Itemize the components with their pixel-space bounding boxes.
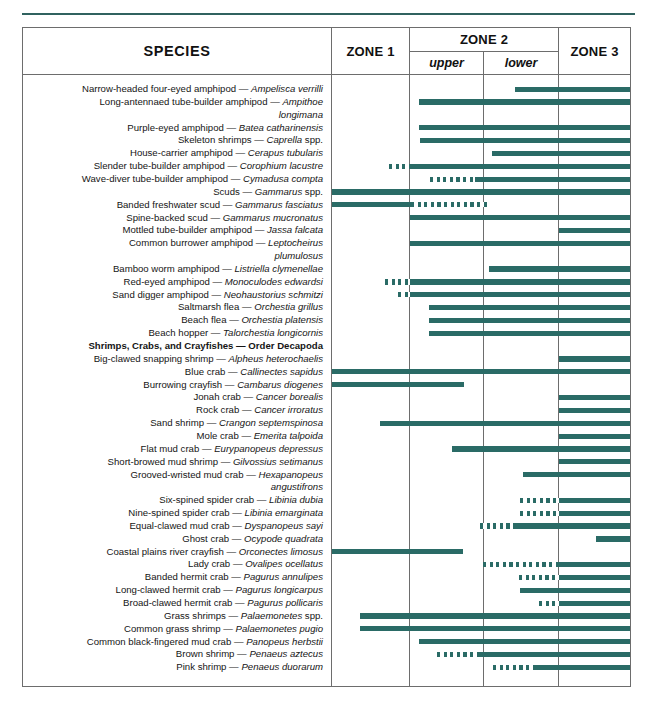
range-bar	[419, 125, 630, 130]
scientific-name: Orconectes limosus	[239, 546, 323, 557]
table-row: Saltmarsh flea — Orchestia grillus	[23, 301, 630, 314]
species-label: Grooved-wristed mud crab — Hexapanopeus	[23, 469, 329, 482]
species-label: House-carrier amphipod — Cerapus tubular…	[23, 147, 329, 160]
range-bar-dashed	[437, 652, 478, 657]
header-zone-2: ZONE 2	[410, 28, 558, 52]
common-name: Ghost crab —	[182, 533, 244, 544]
scientific-name: longimana	[279, 109, 323, 120]
group-heading-label: Shrimps, Crabs, and Crayfishes — Order D…	[23, 340, 329, 353]
scientific-name: Talorchestia longicornis	[223, 327, 323, 338]
common-name: Banded hermit crab —	[145, 571, 244, 582]
table-row: Spine-backed scud — Gammarus mucronatus	[23, 212, 630, 225]
range-bar	[478, 652, 630, 657]
table-row: longimana	[23, 109, 630, 122]
common-name: Long-clawed hermit crab —	[116, 584, 236, 595]
scientific-name: Pagurus annulipes	[244, 571, 323, 582]
scientific-name: Penaeus duorarum	[241, 661, 323, 672]
table-row: Sand shrimp — Crangon septemspinosa	[23, 417, 630, 430]
range-bar	[419, 99, 630, 104]
scientific-name: Neohaustorius schmitzi	[224, 289, 323, 300]
range-bar	[523, 472, 630, 477]
range-bar	[492, 151, 630, 156]
range-bar	[520, 588, 630, 593]
table-row: Grass shrimps — Palaemonetes spp.	[23, 610, 630, 623]
range-bar-dashed	[483, 562, 559, 567]
scientific-name: Monoculodes edwardsi	[225, 276, 323, 287]
range-bar	[420, 138, 630, 143]
species-label: Burrowing crayfish — Cambarus diogenes	[23, 379, 329, 392]
scientific-name: Pagurus longicarpus	[236, 584, 323, 595]
common-name: Bamboo worm amphipod —	[113, 263, 235, 274]
species-label: Saltmarsh flea — Orchestia grillus	[23, 301, 329, 314]
range-bar	[332, 549, 463, 554]
species-label: Coastal plains river crayfish — Orconect…	[23, 546, 329, 559]
range-bar	[559, 498, 630, 503]
common-name: Sand digger amphipod —	[112, 289, 223, 300]
range-bar	[410, 279, 630, 284]
common-name: Skeleton shrimps —	[178, 134, 267, 145]
range-bar	[533, 665, 630, 670]
table-row: Ghost crab — Ocypode quadrata	[23, 533, 630, 546]
table-row: Mottled tube-builder amphipod — Jassa fa…	[23, 224, 630, 237]
range-bar-dashed	[539, 601, 559, 606]
common-name: Beach hopper —	[148, 327, 223, 338]
header-zone-1: ZONE 1	[332, 28, 409, 74]
range-bar-dashed	[520, 511, 559, 516]
table-row: Common burrower amphipod — Leptocheirus	[23, 237, 630, 250]
common-name: Equal-clawed mud crab —	[129, 520, 244, 531]
common-name: Jonah crab —	[193, 391, 255, 402]
range-bar	[559, 395, 630, 400]
scientific-name: Ampelisca verrilli	[251, 83, 323, 94]
species-label: Flat mud crab — Eurypanopeus depressus	[23, 443, 329, 456]
table-row: Common black-fingered mud crab — Panopeu…	[23, 636, 630, 649]
range-bar	[332, 382, 464, 387]
common-name: Purple-eyed amphipod —	[127, 122, 238, 133]
common-name: Wave-diver tube-builder amphipod —	[82, 173, 243, 184]
scientific-name: Alpheus heterochaelis	[229, 353, 323, 364]
table-row: Banded freshwater scud — Gammarus fascia…	[23, 199, 630, 212]
range-bar	[559, 575, 630, 580]
species-label: plumulosus	[23, 250, 329, 263]
species-label: Bamboo worm amphipod — Listriella clymen…	[23, 263, 329, 276]
scientific-name: Hexapanopeus	[258, 469, 323, 480]
species-label: Banded freshwater scud — Gammarus fascia…	[23, 199, 329, 212]
table-row: Flat mud crab — Eurypanopeus depressus	[23, 443, 630, 456]
scientific-name: plumulosus	[274, 250, 323, 261]
species-label: Six-spined spider crab — Libinia dubia	[23, 494, 329, 507]
species-label: Narrow-headed four-eyed amphipod — Ampel…	[23, 83, 329, 96]
species-label: Lady crab — Ovalipes ocellatus	[23, 558, 329, 571]
common-name: Brown shrimp —	[176, 648, 250, 659]
species-label: Common grass shrimp — Palaemonetes pugio	[23, 623, 329, 636]
common-name: Common grass shrimp —	[124, 623, 235, 634]
range-bar-dashed	[389, 164, 410, 169]
species-label: Red-eyed amphipod — Monoculodes edwardsi	[23, 276, 329, 289]
scientific-name: Ampithoe	[282, 96, 323, 107]
range-bar	[332, 369, 630, 374]
common-name: Red-eyed amphipod —	[124, 276, 225, 287]
species-label: longimana	[23, 109, 329, 122]
common-name: Common black-fingered mud crab —	[87, 636, 246, 647]
scientific-name: Cancer irroratus	[254, 404, 323, 415]
common-name: Beach flea —	[181, 314, 241, 325]
species-label: Big-clawed snapping shrimp — Alpheus het…	[23, 353, 329, 366]
header-zone-2-upper: upper	[410, 52, 483, 74]
common-name: Blue crab —	[185, 366, 240, 377]
species-label: Scuds — Gammarus spp.	[23, 186, 329, 199]
species-label: Jonah crab — Cancer borealis	[23, 391, 329, 404]
common-name: Mottled tube-builder amphipod —	[122, 224, 267, 235]
range-bar	[410, 241, 630, 246]
header-zone-2-lower: lower	[484, 52, 558, 74]
scientific-name: angustifrons	[271, 481, 323, 492]
common-name: Slender tube-builder amphipod —	[94, 160, 240, 171]
species-label: Banded hermit crab — Pagurus annulipes	[23, 571, 329, 584]
table-row: Red-eyed amphipod — Monoculodes edwardsi	[23, 276, 630, 289]
table-row: Rock crab — Cancer irroratus	[23, 404, 630, 417]
scientific-name: Corophium lacustre	[240, 160, 323, 171]
common-name: Spine-backed scud —	[126, 212, 223, 223]
species-label: Long-antennaed tube-builder amphipod — A…	[23, 96, 329, 109]
species-label: Pink shrimp — Penaeus duorarum	[23, 661, 329, 674]
species-label: Brown shrimp — Penaeus aztecus	[23, 648, 329, 661]
table-row: Beach flea — Orchestia platensis	[23, 314, 630, 327]
common-name: House-carrier amphipod —	[130, 147, 248, 158]
species-label: Sand digger amphipod — Neohaustorius sch…	[23, 289, 329, 302]
